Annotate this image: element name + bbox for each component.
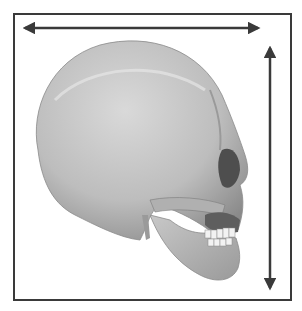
- skull-diagram: [0, 0, 302, 311]
- skull-icon: [36, 41, 247, 280]
